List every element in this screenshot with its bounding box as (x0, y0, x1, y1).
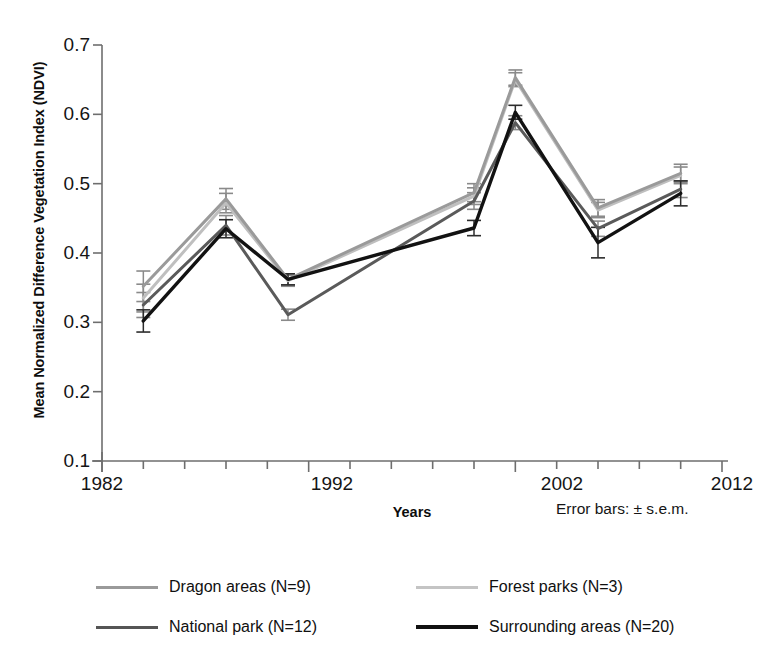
legend-label-surrounding-areas: Surrounding areas (N=20) (489, 618, 674, 636)
series-line-2 (143, 123, 680, 315)
plot-area (0, 0, 776, 665)
legend-label-forest-parks: Forest parks (N=3) (489, 578, 623, 596)
ndvi-line-chart-figure: Mean Normalized Difference Vegetation In… (0, 0, 776, 665)
legend-swatch-surrounding-areas (416, 625, 478, 629)
legend-entry-surrounding-areas: Surrounding areas (N=20) (416, 614, 674, 640)
legend-swatch-dragon-areas (96, 586, 158, 589)
legend-label-dragon-areas: Dragon areas (N=9) (169, 578, 311, 596)
legend-entry-national-park: National park (N=12) (96, 614, 317, 640)
legend-label-national-park: National park (N=12) (169, 618, 317, 636)
chart-legend: Dragon areas (N=9) Forest parks (N=3) Na… (96, 568, 716, 648)
legend-entry-dragon-areas: Dragon areas (N=9) (96, 574, 311, 600)
series-line-0 (143, 78, 680, 287)
legend-swatch-national-park (96, 626, 158, 629)
legend-entry-forest-parks: Forest parks (N=3) (416, 574, 623, 600)
legend-swatch-forest-parks (416, 586, 478, 589)
